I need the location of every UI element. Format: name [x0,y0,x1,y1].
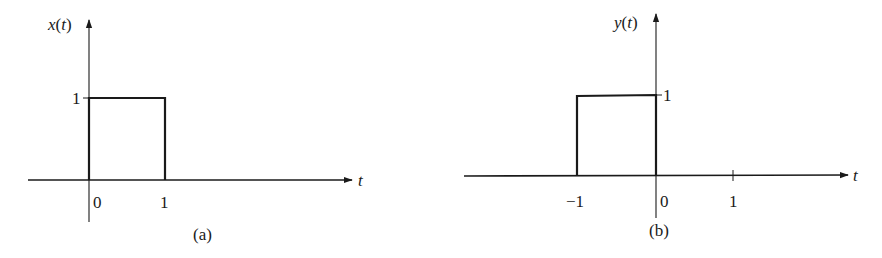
x-tick-label-a-0: 0 [93,193,102,212]
panel-a: x(t) 1 0 1 (a) [28,15,352,244]
pulse-b [577,95,656,176]
y-label-b: y(t) [612,13,638,32]
t-axis-label-a: t [358,171,364,190]
caption-b: (b) [649,221,669,240]
pulse-a [89,98,165,180]
panel-b: y(t) 1 −1 0 1 t (b) [464,13,859,240]
t-axis-label-b: t [853,166,859,185]
x-tick-label-a-1: 1 [160,193,169,212]
y-tick-label-b: 1 [663,86,672,105]
x-tick-label-b-neg1: −1 [566,192,584,211]
figure-canvas: x(t) 1 0 1 (a) y(t) 1 −1 0 1 t (b) t [0,0,882,258]
y-label-a: x(t) [47,15,72,34]
y-tick-label-a: 1 [72,89,81,108]
caption-a: (a) [193,225,212,244]
x-tick-label-b-1: 1 [729,192,738,211]
x-tick-label-b-0: 0 [660,192,669,211]
